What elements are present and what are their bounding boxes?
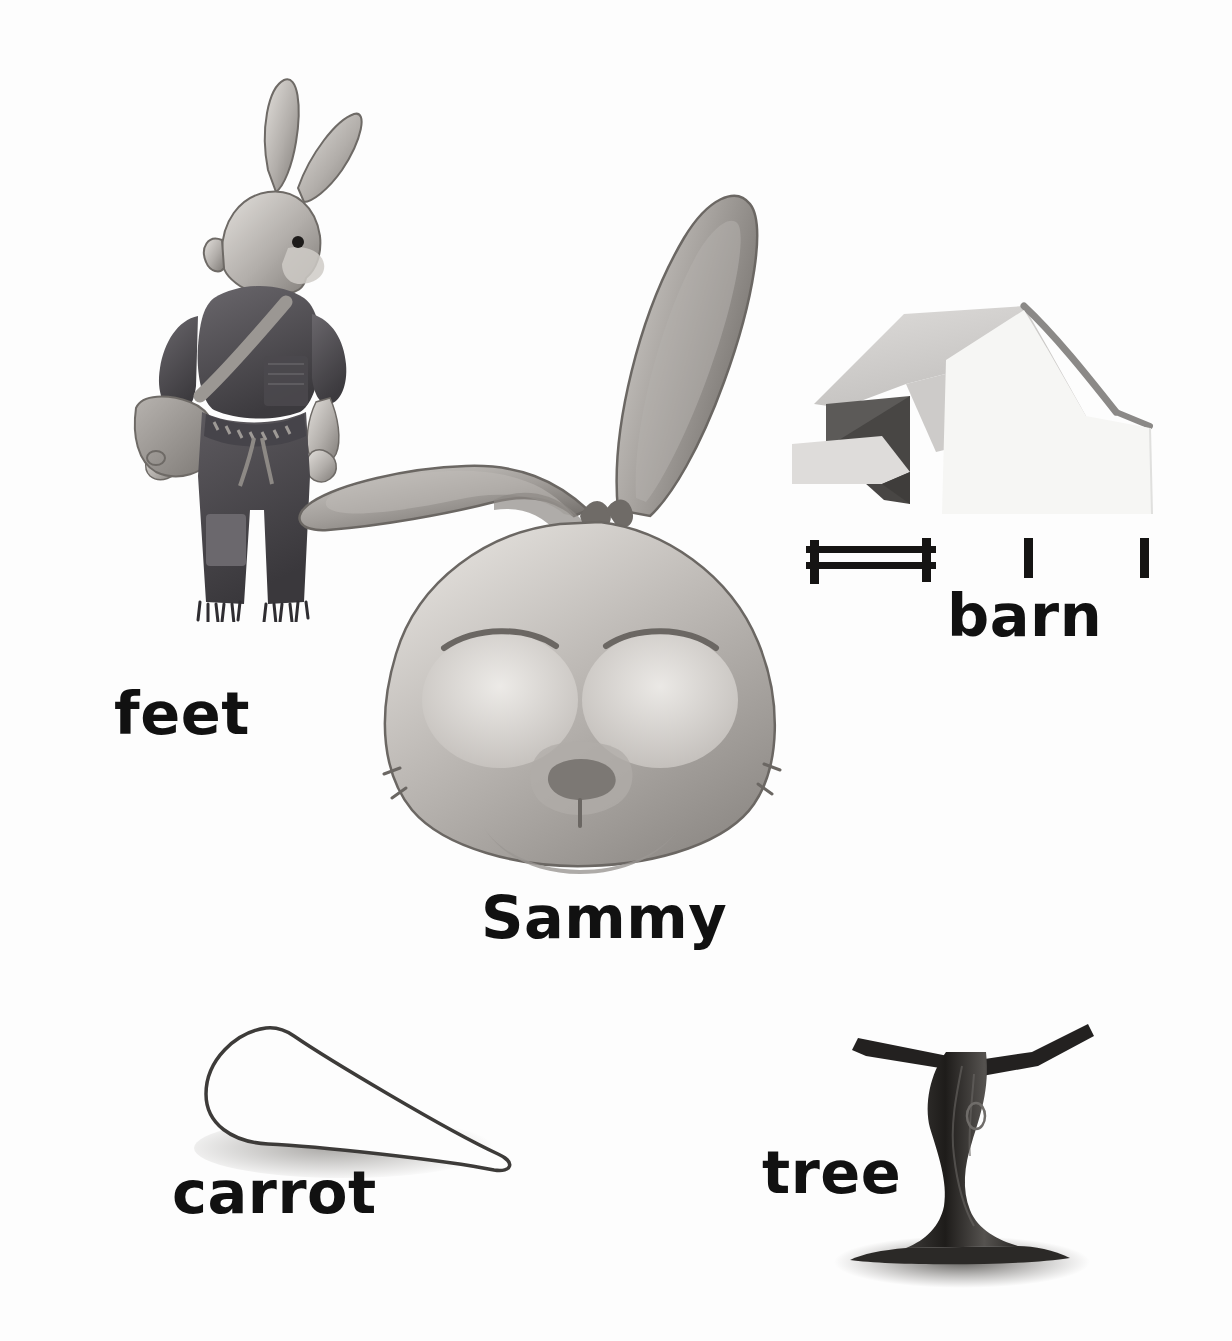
- rabbit-head-icon: [288, 180, 848, 880]
- label-feet: feet: [114, 684, 250, 743]
- label-carrot: carrot: [172, 1163, 377, 1222]
- label-sammy: Sammy: [481, 888, 727, 947]
- barn-icon: [786, 288, 1194, 588]
- label-tree: tree: [762, 1143, 901, 1202]
- worksheet-page: feet Sammy barn carrot tree: [0, 0, 1232, 1341]
- fence-icon: [806, 538, 1149, 584]
- carrot-icon: [176, 1002, 548, 1182]
- label-barn: barn: [947, 586, 1102, 645]
